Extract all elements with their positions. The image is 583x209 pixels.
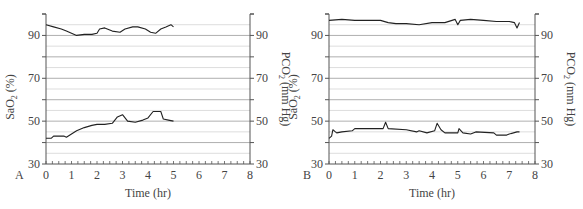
y-tick-label-left: 50 — [311, 114, 323, 128]
chart-panel-b: 3050709030507090012345678BTime (hr)SaO2 … — [286, 14, 578, 200]
series-pco2-line — [46, 112, 174, 139]
series-pco2-line — [329, 122, 520, 138]
y-tick-label-left: 30 — [311, 157, 323, 171]
x-tick-label: 1 — [352, 168, 358, 182]
y-tick-label-right: 90 — [541, 28, 553, 42]
x-tick-label: 5 — [171, 168, 177, 182]
y-tick-label-left: 30 — [28, 157, 40, 171]
y-tick-label-left: 70 — [28, 71, 40, 85]
y-tick-label-right: 30 — [541, 157, 553, 171]
y-tick-label-right: 30 — [256, 157, 268, 171]
x-tick-label: 7 — [222, 168, 228, 182]
x-tick-label: 7 — [506, 168, 512, 182]
x-tick-label: 5 — [455, 168, 461, 182]
y-axis-title-right: PCO2 (mm Hg) — [562, 52, 578, 127]
chart-panel-a: 3050709030507090012345678ATime (hr)SaO2 … — [3, 14, 293, 200]
x-tick-label: 2 — [378, 168, 384, 182]
x-tick-label: 0 — [326, 168, 332, 182]
x-tick-label: 0 — [43, 168, 49, 182]
x-tick-label: 1 — [69, 168, 75, 182]
series-sao2-line — [329, 19, 520, 28]
panel-letter: A — [15, 168, 24, 182]
x-tick-label: 6 — [196, 168, 202, 182]
series-sao2-line — [46, 25, 174, 36]
y-tick-label-right: 50 — [256, 114, 268, 128]
figure: 3050709030507090012345678ATime (hr)SaO2 … — [0, 0, 583, 209]
x-tick-label: 6 — [481, 168, 487, 182]
y-tick-label-left: 50 — [28, 114, 40, 128]
panel-letter: B — [303, 168, 311, 182]
x-axis-title: Time (hr) — [409, 186, 455, 200]
x-axis-title: Time (hr) — [125, 186, 171, 200]
x-tick-label: 4 — [145, 168, 151, 182]
y-tick-label-left: 90 — [311, 28, 323, 42]
x-tick-label: 8 — [532, 168, 538, 182]
x-tick-label: 3 — [403, 168, 409, 182]
y-tick-label-right: 70 — [541, 71, 553, 85]
x-tick-label: 3 — [120, 168, 126, 182]
y-axis-title-left: SaO2 (%) — [3, 74, 19, 120]
x-tick-label: 4 — [429, 168, 435, 182]
y-tick-label-right: 50 — [541, 114, 553, 128]
x-tick-label: 2 — [94, 168, 100, 182]
y-tick-label-left: 90 — [28, 28, 40, 42]
y-tick-label-left: 70 — [311, 71, 323, 85]
y-tick-label-right: 90 — [256, 28, 268, 42]
y-tick-label-right: 70 — [256, 71, 268, 85]
x-tick-label: 8 — [247, 168, 253, 182]
